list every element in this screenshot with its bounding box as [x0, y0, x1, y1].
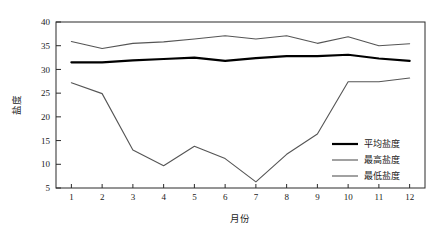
x-tick-label: 6 — [223, 192, 228, 202]
y-tick-label: 5 — [46, 183, 51, 193]
legend-label-0: 平均盐度 — [364, 138, 400, 149]
x-tick-label: 1 — [69, 192, 74, 202]
x-tick-label: 5 — [192, 192, 197, 202]
chart-legend: 平均盐度最高盐度最低盐度 — [332, 138, 400, 181]
y-tick-label: 25 — [41, 88, 51, 98]
y-axis-ticks: 510152025303540 — [41, 17, 61, 193]
x-tick-label: 7 — [254, 192, 259, 202]
x-axis-title: 月份 — [230, 213, 250, 224]
salinity-line-chart: 510152025303540 123456789101112 平均盐度最高盐度… — [0, 0, 447, 233]
x-tick-label: 2 — [100, 192, 105, 202]
y-tick-label: 35 — [41, 41, 51, 51]
y-tick-label: 15 — [41, 136, 51, 146]
x-tick-label: 3 — [131, 192, 136, 202]
y-tick-label: 40 — [41, 17, 51, 27]
x-tick-label: 11 — [375, 192, 384, 202]
y-tick-label: 10 — [41, 159, 51, 169]
series-line-平均盐度 — [71, 55, 409, 63]
x-tick-label: 4 — [161, 192, 166, 202]
legend-label-1: 最高盐度 — [364, 154, 400, 165]
y-tick-label: 30 — [41, 65, 51, 75]
y-tick-label: 20 — [41, 112, 51, 122]
x-axis-ticks: 123456789101112 — [69, 184, 414, 202]
series-line-最低盐度 — [71, 78, 409, 182]
x-tick-label: 12 — [405, 192, 414, 202]
x-tick-label: 10 — [344, 192, 354, 202]
y-axis-title: 盐度 — [11, 95, 22, 115]
legend-label-2: 最低盐度 — [364, 170, 400, 181]
x-tick-label: 8 — [284, 192, 289, 202]
series-lines — [71, 36, 409, 182]
chart-canvas: 510152025303540 123456789101112 平均盐度最高盐度… — [0, 0, 447, 233]
series-line-最高盐度 — [71, 36, 409, 49]
x-tick-label: 9 — [315, 192, 320, 202]
